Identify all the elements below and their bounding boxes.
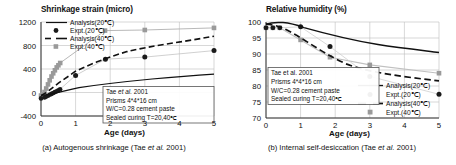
- ytick-b-100: 100: [229, 18, 261, 27]
- caption-a-it: et al.: [148, 143, 164, 152]
- legend-swatch-expt20-a: [54, 28, 59, 33]
- legend-samples-a: [45, 23, 67, 49]
- caption-a: (a) Autogenous shrinkage (Tae et al. 200…: [0, 143, 228, 152]
- xtick-b-0: 0: [261, 121, 271, 130]
- infobox-line-1-it-a: et al.: [118, 88, 132, 95]
- caption-b-post: 2001): [395, 143, 417, 152]
- ytick-b-85: 85: [229, 66, 261, 75]
- legend-label-expt40-a: Expt.(40℃): [70, 43, 105, 51]
- infobox-line-1-post-a: 2001: [132, 88, 148, 95]
- plot-area-a: 1200 800 400 0 -400 0 1 2 3 4 5 Age (day…: [0, 0, 228, 140]
- infobox-line-3-a: W/C=0.28 cement paste: [106, 105, 175, 112]
- ytick-a-minus400: -400: [2, 112, 36, 121]
- infobox-line-2-b: Prisms 4*4*16 cm: [271, 78, 322, 85]
- xtick-a-5: 5: [209, 119, 219, 128]
- xtick-b-1: 1: [296, 121, 306, 130]
- caption-a-post: 2001): [164, 143, 186, 152]
- infobox-line-4-a: Sealed curing T=20,40℃: [106, 114, 177, 122]
- panel-autogenous-shrinkage: Shrinkage strain (micro): [0, 0, 228, 165]
- legend-label-expt40-b: Expt.(40℃): [386, 109, 421, 117]
- xtick-a-0: 0: [36, 119, 46, 128]
- caption-b: (b) Internal self-desiccation (Tae et al…: [228, 143, 456, 152]
- ytick-b-90: 90: [229, 50, 261, 59]
- ytick-b-80: 80: [229, 82, 261, 91]
- legend-label-analysis20-a: Analysis(20℃): [70, 19, 114, 27]
- caption-b-it: et al.: [378, 143, 394, 152]
- legend-label-expt20-a: Expt.(20℃): [70, 27, 105, 35]
- legend-swatch-expt40-b: [368, 110, 373, 115]
- caption-a-pre: (a) Autogenous shrinkage (Tae: [42, 143, 148, 152]
- infobox-line-4-b: Sealed curing T=20,40℃: [271, 95, 342, 103]
- legend-label-analysis20-b: Analysis(20℃): [386, 82, 430, 90]
- ytick-a-0: 0: [2, 89, 36, 98]
- ytick-b-95: 95: [229, 34, 261, 43]
- legend-swatch-expt40-a: [54, 44, 59, 49]
- series-expt40-line-b: [266, 28, 439, 73]
- infobox-line-2-a: Prisms 4*4*16 cm: [106, 97, 157, 104]
- ytick-a-800: 800: [2, 42, 36, 51]
- panel-internal-self-desiccation: Relative humidity (%): [228, 0, 456, 165]
- legend-label-analysis40-b: Analysis(40℃): [386, 100, 430, 108]
- ytick-a-400: 400: [2, 65, 36, 74]
- chart-svg-b: [228, 0, 456, 140]
- legend-label-expt20-b: Expt.(20℃): [386, 91, 421, 99]
- plot-area-b: 100 95 90 85 80 75 70 0 1 2 3 4 5 Age (d…: [228, 0, 456, 140]
- xaxis-label-b: Age (days): [329, 129, 370, 138]
- xaxis-label-a: Age (days): [104, 128, 145, 137]
- ytick-b-70: 70: [229, 114, 261, 123]
- ytick-a-1200: 1200: [2, 18, 36, 27]
- xtick-b-5: 5: [434, 121, 444, 130]
- legend-label-analysis40-a: Analysis(40℃): [70, 35, 114, 43]
- xtick-b-4: 4: [399, 121, 409, 130]
- infobox-line-1-a: Tae et al. 2001: [106, 88, 148, 95]
- infobox-line-1-b: Tae et al. 2001: [271, 69, 313, 76]
- xtick-a-1: 1: [71, 119, 81, 128]
- infobox-line-3-b: W/C=0.28 cement paste: [271, 87, 340, 94]
- figure-row: Shrinkage strain (micro): [0, 0, 456, 165]
- ytick-b-75: 75: [229, 98, 261, 107]
- caption-b-pre: (b) Internal self-desiccation (Tae: [268, 143, 378, 152]
- infobox-line-1-pre-a: Tae: [106, 88, 118, 95]
